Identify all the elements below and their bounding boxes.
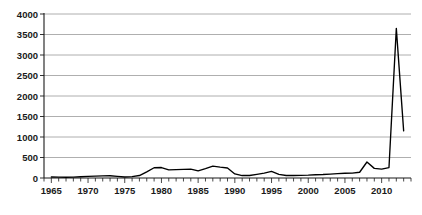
xtick-label: 1965 [41, 185, 63, 196]
xtick-label: 1975 [114, 185, 136, 196]
xtick-label: 1995 [261, 185, 283, 196]
ytick-label: 500 [22, 152, 38, 163]
ytick-label: 0 [33, 173, 38, 184]
y-tickmarks [40, 14, 44, 178]
ytick-label: 2000 [17, 91, 38, 102]
y-axis-labels: 4000 3500 3000 2500 2000 1500 1000 500 0 [17, 9, 38, 184]
xtick-label: 1970 [77, 185, 98, 196]
x-tickmarks [44, 178, 411, 183]
line-chart: 4000 3500 3000 2500 2000 1500 1000 500 0… [0, 0, 422, 215]
ytick-label: 4000 [17, 9, 38, 20]
xtick-label: 1990 [224, 185, 245, 196]
xtick-label: 1985 [188, 185, 210, 196]
xtick-label: 2005 [334, 185, 356, 196]
x-axis-labels: 1965197019751980198519901995200020052010 [41, 185, 392, 196]
ytick-label: 2500 [17, 70, 38, 81]
series-line-value [51, 28, 403, 177]
ytick-label: 1500 [17, 111, 38, 122]
ytick-label: 1000 [17, 132, 38, 143]
xtick-label: 2000 [298, 185, 319, 196]
ytick-label: 3500 [17, 29, 38, 40]
xtick-label: 2010 [371, 185, 392, 196]
gridlines [44, 14, 411, 158]
xtick-label: 1980 [151, 185, 172, 196]
chart-canvas: 4000 3500 3000 2500 2000 1500 1000 500 0… [0, 0, 422, 215]
ytick-label: 3000 [17, 50, 38, 61]
